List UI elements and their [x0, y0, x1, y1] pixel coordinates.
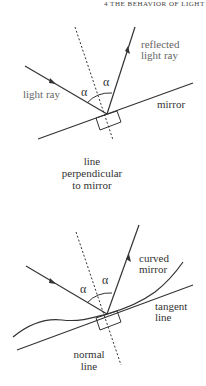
- curved-mirror-diagram: α α curved mirror tangent line normal li…: [13, 225, 193, 372]
- mirror-label: mirror: [157, 98, 185, 110]
- angle-arc: [87, 93, 112, 103]
- normal-label-2: line: [81, 360, 98, 372]
- normal-label-1: normal: [73, 348, 104, 360]
- incident-arrow-icon: [49, 278, 56, 284]
- alpha-right: α: [103, 75, 110, 89]
- curved-label-2: mirror: [139, 263, 167, 275]
- incident-ray: [26, 266, 107, 314]
- alpha-left: α: [81, 85, 88, 99]
- incident-label: light ray: [23, 88, 60, 100]
- page-header: 4 THE BEHAVIOR OF LIGHT: [104, 0, 205, 8]
- reflected-ray: [107, 27, 135, 114]
- reflected-arrow-icon: [125, 46, 130, 54]
- reflection-diagram: 4 THE BEHAVIOR OF LIGHT α α reflected li…: [0, 0, 206, 386]
- normal-label-2: perpendicular: [62, 167, 123, 179]
- reflected-label-2: light ray: [141, 49, 178, 61]
- normal-label-1: line: [84, 155, 101, 167]
- incident-arrow-icon: [49, 78, 56, 84]
- reflected-ray: [107, 225, 139, 314]
- alpha-left: α: [80, 282, 87, 296]
- alpha-right: α: [102, 273, 109, 287]
- normal-label-3: to mirror: [72, 179, 112, 191]
- right-angle-box: [96, 111, 121, 130]
- normal-line: [76, 232, 121, 365]
- tangent-label-2: line: [155, 311, 172, 323]
- flat-mirror-diagram: α α reflected light ray light ray mirror…: [23, 27, 193, 191]
- right-angle-box: [96, 311, 121, 330]
